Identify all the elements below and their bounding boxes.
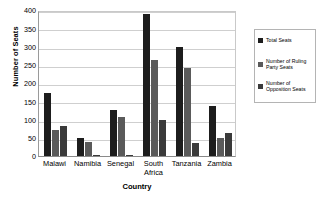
x-axis-tick-label: Senegal [104,160,137,169]
bar[interactable] [151,60,158,156]
x-axis-tick-label: Tanzania [170,160,203,169]
legend-swatch-icon [258,84,263,89]
bar[interactable] [85,142,92,156]
bars-layer [39,12,235,156]
bar[interactable] [225,133,232,156]
x-axis-tick-label: Namibia [71,160,104,169]
bar[interactable] [159,120,166,156]
y-axis-tick-label: 150 [10,99,36,106]
legend-item[interactable]: Number of Ruling Party Seats [258,58,316,70]
legend-label: Number of Opposition Seats [266,80,306,92]
y-axis-tick-label: 100 [10,117,36,124]
y-axis-tick-label: 50 [10,135,36,142]
x-axis-tick-label: SouthAfrica [137,160,170,177]
bar[interactable] [93,155,100,156]
chart-legend: Total SeatsNumber of Ruling Party SeatsN… [254,29,316,103]
bar[interactable] [44,93,51,156]
y-axis-tick-label: 0 [10,153,36,160]
x-axis-tick-label: Zambia [203,160,236,169]
bar-group [105,12,138,156]
bar-group [138,12,171,156]
legend-label: Number of Ruling Party Seats [266,58,306,70]
bar[interactable] [52,130,59,156]
bar-group [39,12,72,156]
bar[interactable] [126,155,133,156]
bar[interactable] [77,138,84,156]
bar[interactable] [217,138,224,156]
y-axis-tick-label: 350 [10,26,36,33]
y-axis-tick-label: 400 [10,7,36,14]
bar[interactable] [209,106,216,156]
y-axis-tick-label: 200 [10,80,36,87]
bar-group [171,12,204,156]
bar-chart: Number of Seats 050100150200250300350400… [0,0,319,202]
bar[interactable] [60,126,67,156]
bar[interactable] [118,117,125,156]
bar[interactable] [143,14,150,156]
y-axis-tick-labels: 050100150200250300350400 [10,0,36,202]
x-axis-tick-label: Malawi [38,160,71,169]
bar[interactable] [110,110,117,156]
y-axis-tick-label: 250 [10,62,36,69]
y-axis-tick-label: 300 [10,44,36,51]
bar[interactable] [184,68,191,156]
legend-item[interactable]: Number of Opposition Seats [258,80,316,92]
bar[interactable] [192,143,199,157]
bar-group [72,12,105,156]
legend-swatch-icon [258,62,263,67]
bar-group [204,12,237,156]
legend-item[interactable]: Total Seats [258,37,316,43]
legend-label: Total Seats [266,37,292,43]
x-axis-title: Country [38,182,236,191]
plot-area [38,11,236,157]
legend-swatch-icon [258,38,263,43]
bar[interactable] [176,47,183,157]
